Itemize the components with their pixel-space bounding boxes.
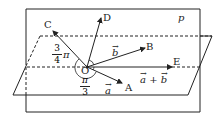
- fraction-numerator: π: [80, 76, 90, 85]
- fraction-denominator: 3: [80, 88, 90, 97]
- point-label-E: E: [173, 57, 180, 67]
- angle-arc-DOB: [89, 60, 94, 65]
- point-label-A: A: [125, 83, 132, 93]
- fraction-denominator: 4: [52, 56, 62, 65]
- fraction-numerator: 3: [52, 44, 62, 53]
- vector-label-a-plus-b: → → a + b: [140, 74, 167, 85]
- vector-label-a: → a: [105, 85, 111, 96]
- point-label-B: B: [146, 42, 153, 52]
- vector-arrow-icon: →: [161, 69, 168, 78]
- point-label-D: D: [103, 13, 111, 23]
- vector-arrow-icon: →: [140, 69, 147, 78]
- vector-arrow-icon: →: [105, 80, 112, 89]
- vector-arrow-icon: →: [112, 42, 119, 51]
- angle-label-3-4-pi: 3 4: [52, 44, 62, 65]
- angle-pi-suffix: π: [63, 50, 70, 60]
- vector-label-b: → b: [112, 47, 118, 58]
- angle-label-pi-3: π 3: [80, 76, 90, 97]
- point-label-C: C: [44, 20, 52, 30]
- plane-label-p: p: [178, 13, 184, 23]
